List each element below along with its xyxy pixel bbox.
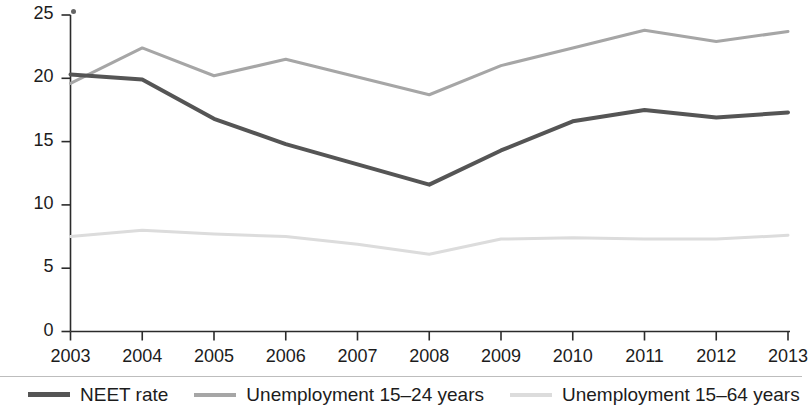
x-tick-label: 2007 [323,346,393,367]
x-tick-label: 2004 [107,346,177,367]
x-tick-label: 2012 [681,346,751,367]
y-tick-label: 25 [18,3,54,24]
x-tick-label: 2011 [610,346,680,367]
x-tick-label: 2009 [466,346,536,367]
legend-divider [0,376,802,377]
series-line-unemployment-15-64-years [71,230,789,254]
y-tick-label: 15 [18,130,54,151]
legend-item-neet-rate: NEET rate [28,384,168,406]
x-tick-label: 2006 [251,346,321,367]
legend-label-unemployment-15-64: Unemployment 15–64 years [562,384,800,406]
y-tick-label: 5 [18,256,54,277]
x-tick-label: 2008 [394,346,464,367]
y-tick-label: 20 [18,66,54,87]
legend-label-neet-rate: NEET rate [80,384,168,406]
x-tick-label: 2005 [179,346,249,367]
legend-swatch-unemployment-15-24 [194,393,236,397]
y-tick-label: 0 [18,320,54,341]
data-series-group [71,30,789,254]
chart-legend: NEET rate Unemployment 15–24 years Unemp… [0,378,802,411]
x-tick-label: 2010 [538,346,608,367]
series-line-neet-rate [71,75,789,185]
legend-swatch-neet-rate [28,392,70,397]
x-tick-label: 2003 [36,346,106,367]
y-axis-ticks [62,15,71,332]
x-axis-ticks [71,332,789,341]
x-tick-label: 2013 [753,346,812,367]
legend-swatch-unemployment-15-64 [510,393,552,397]
legend-item-unemployment-15-24: Unemployment 15–24 years [194,384,484,406]
y-tick-label: 10 [18,193,54,214]
series-line-unemployment-15-24-years [71,30,789,95]
legend-item-unemployment-15-64: Unemployment 15–64 years [510,384,800,406]
legend-label-unemployment-15-24: Unemployment 15–24 years [246,384,484,406]
scan-artifact-dot [71,9,76,14]
